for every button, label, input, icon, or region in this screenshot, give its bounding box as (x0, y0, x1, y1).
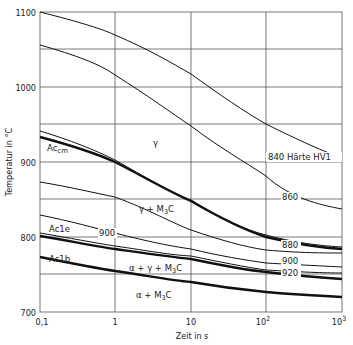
y-tick-900: 900 (21, 158, 36, 168)
label-ac1e: Ac1e (49, 224, 70, 234)
y-tick-1000: 1000 (15, 83, 36, 93)
x-tick-1000: 103 (332, 315, 346, 327)
x-tick-0.1: 0,1 (36, 317, 49, 327)
label-900-right: 900 (282, 256, 298, 266)
label-860: 860 (282, 192, 298, 202)
label-900-left: 900 (99, 228, 115, 238)
x-tick-1: 1 (112, 317, 117, 327)
y-tick-700: 700 (21, 308, 36, 318)
chart: 1100 1000 900 800 700 0,1 1 10 102 103 Z… (0, 0, 353, 345)
region-alpha-m3c: α + M3C (136, 290, 172, 302)
x-tick-100: 102 (256, 315, 270, 327)
label-840-haerte-hv1: 840 Härte HV1 (268, 152, 331, 162)
label-920: 920 (282, 268, 298, 278)
y-tick-800: 800 (21, 233, 36, 243)
label-880: 880 (282, 240, 298, 250)
y-tick-1100: 1100 (15, 8, 36, 18)
x-tick-10: 10 (186, 317, 196, 327)
label-ac1b: Ac1b (49, 254, 70, 264)
x-axis-title: Zeit in s (176, 331, 209, 341)
y-axis-title: Temperatur in °C (4, 127, 14, 197)
region-gamma: γ (153, 138, 158, 148)
